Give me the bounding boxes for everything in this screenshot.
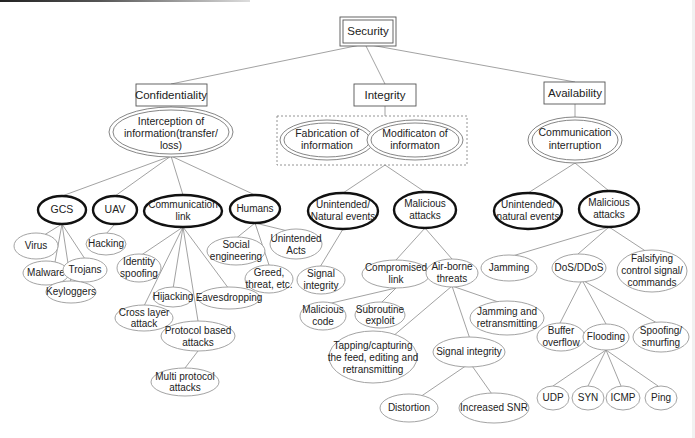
label-line: spoofing xyxy=(120,268,158,279)
label-line: information xyxy=(301,139,353,151)
label-line: Multi protocol xyxy=(155,371,214,382)
label-line: Communication xyxy=(148,199,217,210)
label-line: Hijacking xyxy=(153,291,194,302)
label-line: control signal/ xyxy=(621,265,683,276)
node-protocol-based-attacks: Protocol based attacks xyxy=(161,321,235,351)
label-line: exploit xyxy=(366,315,395,326)
node-icmp: ICMP xyxy=(606,386,640,410)
node-confidentiality-label: Confidentiality xyxy=(135,89,207,101)
label-line: information(transfer/ xyxy=(124,127,218,139)
label-line: Cross layer xyxy=(119,307,170,318)
node-ping: Ping xyxy=(645,386,677,410)
label-line: Buffer xyxy=(548,325,575,336)
label-line: Hacking xyxy=(88,238,124,249)
label-line: Falsifying xyxy=(631,253,673,264)
label-line: integrity xyxy=(303,280,338,291)
label-line: Virus xyxy=(25,240,48,251)
node-keyloggers: Keyloggers xyxy=(46,281,96,303)
node-flooding: Flooding xyxy=(583,324,629,350)
label-line: Signal xyxy=(307,268,335,279)
node-security: Security xyxy=(340,17,396,46)
label-line: ICMP xyxy=(611,392,636,403)
label-line: the feed, editing and xyxy=(328,352,419,363)
node-signal-integrity-airborne: Signal integrity xyxy=(433,337,505,367)
label-line: attacks xyxy=(169,382,201,393)
label-line: link xyxy=(175,211,191,222)
node-integrity-malicious: Malicious attacks xyxy=(394,192,456,228)
label-line: Air-borne xyxy=(431,261,473,272)
label-line: Trojans xyxy=(69,264,102,275)
node-humans: Humans xyxy=(230,195,280,223)
node-confidentiality: Confidentiality xyxy=(135,84,207,106)
node-social-engineering: Social engineering xyxy=(207,237,265,265)
node-gcs: GCS xyxy=(38,196,86,224)
node-virus: Virus xyxy=(14,233,58,259)
node-availability-unintended: Unintended/ natural events xyxy=(494,193,562,229)
label-line: Greed, xyxy=(254,267,285,278)
node-compromised-link: Compromised link xyxy=(362,260,430,288)
node-subroutine-exploit: Subroutine exploit xyxy=(355,302,405,328)
security-taxonomy-diagram: Security Confidentiality Integrity Avail… xyxy=(0,0,695,438)
node-buffer-overflow: Buffer overflow xyxy=(537,323,585,351)
label-line: Communication xyxy=(539,126,612,138)
label-line: Interception of xyxy=(138,115,205,127)
label-line: Natural events xyxy=(311,211,375,222)
label-line: Tapping/capturing xyxy=(334,340,413,351)
label-line: GCS xyxy=(51,203,74,215)
label-line: Modificaton of xyxy=(382,127,447,139)
label-line: retransmitting xyxy=(477,318,538,329)
label-line: Identity xyxy=(123,256,155,267)
node-availability: Availability xyxy=(544,82,605,104)
label-line: Malicious xyxy=(404,198,446,209)
label-line: Protocol based xyxy=(165,325,232,336)
label-line: Subroutine xyxy=(356,304,405,315)
label-line: Increased SNR xyxy=(460,402,528,413)
node-interruption: Communication interruption xyxy=(528,117,622,163)
label-line: attacks xyxy=(409,210,441,221)
node-identity-spoofing: Identity spoofing xyxy=(117,254,161,282)
node-integrity-unintended: Unintended/ Natural events xyxy=(308,193,378,229)
node-interception: Interception of information(transfer/ lo… xyxy=(109,107,233,157)
label-line: Unintended/ xyxy=(316,199,370,210)
node-greed-threat: Greed, threat, etc. xyxy=(245,265,293,293)
node-uav: UAV xyxy=(93,196,137,224)
label-line: Ping xyxy=(651,392,671,403)
node-integrity-label: Integrity xyxy=(365,89,406,101)
label-line: Signal integrity xyxy=(436,346,502,357)
label-line: attacks xyxy=(593,209,625,220)
node-airborne-threats: Air-borne threats xyxy=(426,259,478,287)
node-security-label: Security xyxy=(347,25,389,37)
node-unintended-acts: Unintended Acts xyxy=(270,229,322,259)
label-line: UAV xyxy=(105,203,126,215)
label-line: interruption xyxy=(549,139,602,151)
label-line: SYN xyxy=(578,392,599,403)
label-line: threats xyxy=(437,273,468,284)
label-line: Malicious xyxy=(302,304,344,315)
label-line: retransmitting xyxy=(343,364,404,375)
node-syn: SYN xyxy=(572,386,604,410)
node-spoofing-smurfing: Spoofing/ smurfing xyxy=(633,322,689,352)
label-line: Flooding xyxy=(587,331,625,342)
label-line: loss) xyxy=(160,139,182,151)
node-multi-protocol-attacks: Multi protocol attacks xyxy=(151,368,219,396)
node-hijacking: Hijacking xyxy=(153,287,194,307)
node-modification: Modificaton of informaton xyxy=(367,120,463,160)
node-trojans: Trojans xyxy=(63,258,107,282)
label-line: natural events xyxy=(497,211,560,222)
label-line: Compromised xyxy=(365,262,427,273)
node-distortion: Distortion xyxy=(380,394,438,422)
label-line: Acts xyxy=(286,245,305,256)
label-line: UDP xyxy=(542,392,563,403)
node-dos-ddos: DoS/DDoS xyxy=(552,254,606,282)
node-udp: UDP xyxy=(537,386,569,410)
label-line: attacks xyxy=(182,337,214,348)
node-jamming-retransmitting: Jamming and retransmitting xyxy=(470,301,544,335)
label-line: smurfing xyxy=(642,337,680,348)
label-line: Fabrication of xyxy=(295,127,359,139)
node-increased-snr: Increased SNR xyxy=(459,393,529,423)
label-line: Jamming xyxy=(489,262,530,273)
node-malicious-code: Malicious code xyxy=(300,302,346,330)
label-line: Malicious xyxy=(588,197,630,208)
label-line: code xyxy=(312,316,334,327)
node-communication-link: Communication link xyxy=(144,195,222,227)
